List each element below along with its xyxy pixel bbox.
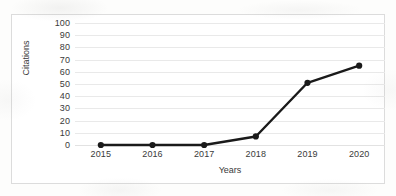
y-tick-label-0: 0: [65, 140, 70, 150]
y-tick-label-70: 70: [60, 55, 70, 65]
x-tick-label-2020: 2020: [349, 149, 369, 159]
x-tick-label-2015: 2015: [91, 149, 111, 159]
x-axis-title: Years: [75, 165, 385, 175]
y-axis-tick-labels: 0102030405060708090100: [34, 23, 70, 145]
y-tick-label-20: 20: [60, 116, 70, 126]
series-markers: [98, 63, 363, 149]
y-tick-label-80: 80: [60, 42, 70, 52]
series-line: [101, 66, 359, 145]
plot-area: [75, 23, 385, 145]
y-tick-label-10: 10: [60, 128, 70, 138]
y-tick-label-30: 30: [60, 103, 70, 113]
x-tick-label-2016: 2016: [142, 149, 162, 159]
data-point-2020: [356, 63, 362, 69]
data-point-2018: [253, 133, 259, 139]
data-point-2016: [149, 142, 155, 148]
y-axis-title: Citations: [21, 28, 31, 88]
x-tick-label-2018: 2018: [246, 149, 266, 159]
data-point-2015: [98, 142, 104, 148]
y-tick-label-100: 100: [55, 18, 70, 28]
x-axis-tick-labels: 201520162017201820192020: [75, 149, 385, 163]
y-tick-label-40: 40: [60, 91, 70, 101]
y-tick-label-50: 50: [60, 79, 70, 89]
chart-screenshot: Citations 0102030405060708090100 2015201…: [0, 0, 396, 196]
x-tick-label-2019: 2019: [297, 149, 317, 159]
citations-line-series: [75, 23, 385, 145]
y-tick-label-60: 60: [60, 67, 70, 77]
data-point-2019: [304, 80, 310, 86]
x-tick-label-2017: 2017: [194, 149, 214, 159]
data-point-2017: [201, 142, 207, 148]
chart-frame: Citations 0102030405060708090100 2015201…: [11, 14, 385, 184]
y-tick-label-90: 90: [60, 30, 70, 40]
